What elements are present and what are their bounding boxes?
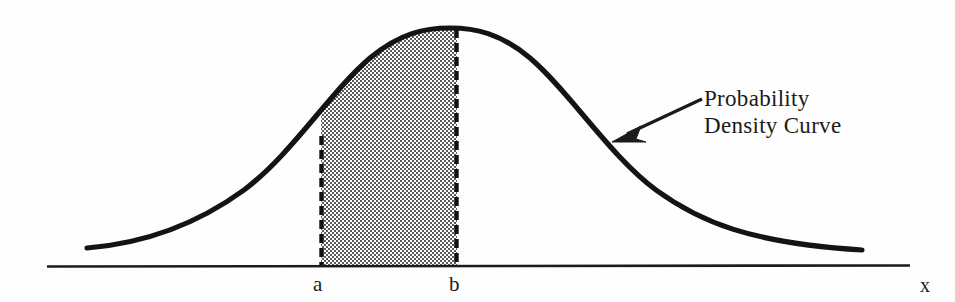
axis-tick-label-b: b: [449, 274, 460, 295]
annotation-line-2: Density Curve: [704, 113, 841, 140]
probability-density-figure: a b x Probability Density Curve: [0, 0, 955, 302]
annotation-line-1: Probability: [704, 86, 841, 113]
figure-canvas: [0, 0, 955, 302]
x-axis-label: x: [920, 275, 930, 295]
curve-annotation-label: Probability Density Curve: [704, 86, 841, 140]
axis-tick-label-a: a: [313, 274, 322, 295]
x-axis-baseline: [47, 266, 910, 267]
pointer-arrow-icon: [612, 99, 702, 142]
